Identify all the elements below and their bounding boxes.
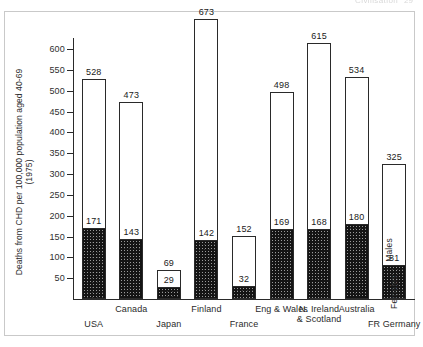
y-axis-tick-label-wrap: 200 — [31, 216, 65, 217]
x-axis-category-label: Australia — [325, 304, 389, 314]
y-axis-tick-label: 500 — [35, 86, 65, 96]
bar-female-segment — [270, 229, 294, 299]
running-head-page-number: 29 — [404, 0, 413, 5]
bar-female-segment — [345, 224, 369, 299]
y-axis-tick-label-wrap: 350 — [31, 153, 65, 154]
x-axis-line — [73, 299, 415, 300]
y-axis-tick-label-wrap: 450 — [31, 112, 65, 113]
x-axis-category-label: France — [212, 319, 276, 329]
y-axis-tick-mark — [67, 70, 74, 71]
bar-value-label-female: 169 — [273, 217, 291, 227]
bar-male-total: 673142 — [194, 19, 218, 299]
bar-value-label-male: 673 — [199, 7, 215, 17]
y-axis-tick-label: 450 — [35, 107, 65, 117]
y-axis-line — [73, 38, 74, 300]
bar-female-segment — [119, 239, 143, 299]
y-axis-tick-label-wrap: 550 — [31, 70, 65, 71]
bar-value-label-male: 528 — [86, 67, 102, 77]
bar-value-label-female: 180 — [348, 212, 366, 222]
y-axis-tick-label: 100 — [35, 252, 65, 262]
bar-value-label-male: 69 — [164, 258, 174, 268]
x-axis-category-label: Canada — [99, 304, 163, 314]
bar-value-label-male: 152 — [236, 224, 252, 234]
x-axis-category-label: Japan — [137, 319, 201, 329]
y-axis-tick-label-wrap: 250 — [31, 195, 65, 196]
y-axis-tick-mark — [67, 237, 74, 238]
y-axis-tick-mark — [67, 112, 74, 113]
bar-value-label-female: 29 — [163, 275, 175, 285]
bar-male-total: 528171 — [82, 79, 106, 299]
y-axis-tick-mark — [67, 49, 74, 50]
bar-male-total: 473143 — [119, 102, 143, 299]
bar-female-segment — [82, 228, 106, 299]
y-axis-tick-mark — [67, 195, 74, 196]
y-axis-tick-label-wrap: 500 — [31, 91, 65, 92]
bar-value-label-female: 32 — [238, 274, 250, 284]
chart-plot-area: Deaths from CHD per 100,000 population a… — [5, 12, 414, 335]
y-axis-tick-label-wrap: 150 — [31, 237, 65, 238]
bar-female-segment — [157, 287, 181, 299]
y-axis-tick-label-wrap: 400 — [31, 132, 65, 133]
y-axis-tick-mark — [67, 278, 74, 279]
y-axis-tick-mark — [67, 216, 74, 217]
y-axis-tick-label: 400 — [35, 127, 65, 137]
bar-female-segment — [194, 240, 218, 299]
y-axis-title: Deaths from CHD per 100,000 population a… — [14, 67, 34, 277]
bar-male-total: 6929 — [157, 270, 181, 299]
y-axis-tick-label: 600 — [35, 44, 65, 54]
x-axis-category-label: FR Germany — [362, 319, 423, 329]
bar-male-total: 15232 — [232, 236, 256, 299]
bar-value-label-male: 534 — [349, 65, 365, 75]
y-axis-tick-mark — [67, 257, 74, 258]
y-axis-tick-label: 250 — [35, 190, 65, 200]
y-axis-tick-label-wrap: 50 — [31, 278, 65, 279]
running-head: Civilisation 29 — [355, 0, 413, 5]
y-axis-tick-label-wrap: 300 — [31, 174, 65, 175]
bar-male-total: 498169 — [270, 92, 294, 300]
bar-female-segment — [307, 229, 331, 299]
y-axis-tick-label: 50 — [35, 273, 65, 283]
figure-frame: Deaths from CHD per 100,000 population a… — [4, 11, 415, 336]
bar-value-label-male: 473 — [124, 90, 140, 100]
bar-value-label-male: 498 — [274, 80, 290, 90]
y-axis-tick-label: 300 — [35, 169, 65, 179]
y-axis-tick-label-wrap: 600 — [31, 49, 65, 50]
bar-male-total: 615168 — [307, 43, 331, 299]
bar-male-total: 534180 — [345, 77, 369, 300]
bar-value-label-male: 325 — [386, 152, 402, 162]
y-axis-tick-label-wrap: 100 — [31, 257, 65, 258]
bar-value-label-female: 171 — [85, 216, 103, 226]
x-axis-category-label: Finland — [174, 304, 238, 314]
bar-value-label-female: 142 — [198, 228, 216, 238]
bar-value-label-female: 143 — [123, 227, 141, 237]
running-head-title: Civilisation — [355, 0, 398, 5]
y-axis-tick-label: 350 — [35, 148, 65, 158]
y-axis-tick-mark — [67, 153, 74, 154]
series-label-males: Males — [384, 238, 394, 262]
y-axis-tick-label: 150 — [35, 232, 65, 242]
y-axis-tick-mark — [67, 174, 74, 175]
y-axis-tick-label: 200 — [35, 211, 65, 221]
bar-female-segment — [232, 286, 256, 299]
y-axis-tick-label: 550 — [35, 65, 65, 75]
series-label-females: Females — [389, 275, 399, 309]
y-axis-tick-mark — [67, 132, 74, 133]
bar-value-label-female: 168 — [310, 217, 328, 227]
x-axis-category-label: USA — [62, 319, 126, 329]
bar-value-label-male: 615 — [311, 31, 327, 41]
y-axis-tick-mark — [67, 91, 74, 92]
